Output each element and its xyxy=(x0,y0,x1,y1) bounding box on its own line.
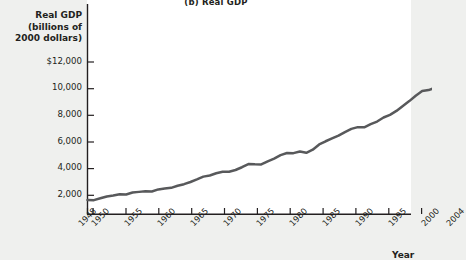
axis-lines xyxy=(87,4,411,215)
x-tick-label-2004: 2004 xyxy=(444,206,466,228)
gdp-line-series xyxy=(88,77,433,200)
x-axis-ticks xyxy=(88,208,433,214)
